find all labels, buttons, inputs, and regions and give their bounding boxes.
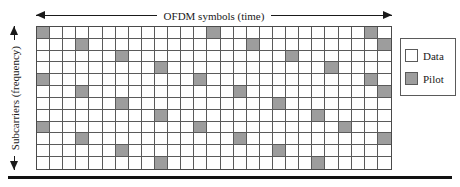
data-cell	[325, 122, 338, 134]
data-cell	[378, 51, 391, 63]
data-cell	[103, 133, 116, 145]
data-cell	[37, 62, 50, 74]
data-cell	[63, 27, 76, 39]
data-cell	[142, 51, 155, 63]
data-cell	[325, 157, 338, 169]
data-cell	[207, 133, 220, 145]
data-cell	[365, 98, 378, 110]
left-arrow-icon	[36, 8, 157, 24]
data-cell	[142, 39, 155, 51]
data-cell	[168, 133, 181, 145]
data-cell	[103, 110, 116, 122]
data-cell	[155, 39, 168, 51]
data-cell	[260, 86, 273, 98]
pilot-cell	[76, 39, 89, 51]
data-cell	[260, 39, 273, 51]
data-cell	[37, 51, 50, 63]
data-cell	[142, 110, 155, 122]
data-cell	[312, 62, 325, 74]
data-cell	[339, 110, 352, 122]
data-cell	[194, 145, 207, 157]
data-cell	[365, 157, 378, 169]
data-cell	[299, 122, 312, 134]
pilot-cell	[339, 122, 352, 134]
data-cell	[181, 86, 194, 98]
data-cell	[247, 157, 260, 169]
data-cell	[129, 122, 142, 134]
legend-label-pilot: Pilot	[423, 73, 444, 85]
data-cell	[37, 157, 50, 169]
data-cell	[378, 98, 391, 110]
data-cell	[194, 39, 207, 51]
data-cell	[89, 86, 102, 98]
data-cell	[63, 157, 76, 169]
pilot-cell	[378, 39, 391, 51]
data-cell	[168, 122, 181, 134]
pilot-cell	[325, 62, 338, 74]
data-cell	[221, 51, 234, 63]
data-cell	[168, 157, 181, 169]
data-cell	[286, 98, 299, 110]
data-cell	[260, 27, 273, 39]
data-cell	[129, 157, 142, 169]
bottom-rule	[8, 176, 452, 179]
pilot-cell	[116, 51, 129, 63]
data-cell	[207, 145, 220, 157]
data-cell	[221, 122, 234, 134]
pilot-cell	[116, 98, 129, 110]
data-cell	[352, 39, 365, 51]
data-cell	[299, 39, 312, 51]
pilot-cell	[194, 122, 207, 134]
pilot-cell	[37, 122, 50, 134]
data-cell	[207, 62, 220, 74]
data-cell	[273, 39, 286, 51]
data-cell	[76, 110, 89, 122]
data-cell	[207, 51, 220, 63]
data-cell	[76, 74, 89, 86]
data-cell	[76, 157, 89, 169]
data-cell	[63, 122, 76, 134]
data-cell	[37, 133, 50, 145]
data-cell	[103, 122, 116, 134]
data-cell	[116, 27, 129, 39]
ofdm-resource-grid	[36, 26, 392, 170]
data-cell	[247, 86, 260, 98]
data-cell	[50, 110, 63, 122]
data-cell	[339, 145, 352, 157]
data-cell	[116, 157, 129, 169]
data-cell	[103, 27, 116, 39]
data-cell	[312, 39, 325, 51]
data-cell	[142, 98, 155, 110]
pilot-swatch-icon	[405, 72, 418, 85]
data-cell	[325, 110, 338, 122]
data-cell	[63, 74, 76, 86]
data-cell	[37, 86, 50, 98]
data-cell	[286, 86, 299, 98]
data-cell	[76, 51, 89, 63]
data-cell	[352, 122, 365, 134]
data-cell	[299, 133, 312, 145]
data-cell	[181, 62, 194, 74]
data-cell	[339, 157, 352, 169]
data-cell	[221, 157, 234, 169]
data-cell	[37, 98, 50, 110]
data-cell	[325, 145, 338, 157]
data-cell	[365, 51, 378, 63]
data-cell	[89, 145, 102, 157]
data-cell	[63, 39, 76, 51]
data-cell	[312, 122, 325, 134]
data-cell	[50, 27, 63, 39]
data-cell	[352, 86, 365, 98]
data-cell	[116, 74, 129, 86]
data-cell	[129, 39, 142, 51]
data-cell	[76, 98, 89, 110]
data-cell	[155, 74, 168, 86]
pilot-cell	[273, 98, 286, 110]
data-cell	[312, 98, 325, 110]
data-cell	[116, 122, 129, 134]
data-cell	[378, 74, 391, 86]
data-cell	[103, 98, 116, 110]
data-cell	[142, 86, 155, 98]
data-cell	[273, 110, 286, 122]
data-cell	[247, 51, 260, 63]
